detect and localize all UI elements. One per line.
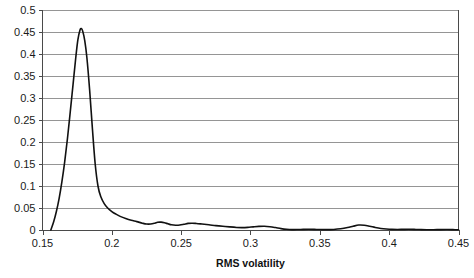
x-tick-label: 0.4 [382, 237, 397, 249]
y-tick-label: 0.25 [14, 114, 35, 126]
x-axis-tick-labels: 0.150.20.250.30.350.40.45 [32, 237, 469, 249]
y-tick-label: 0.5 [20, 4, 35, 16]
x-tick-label: 0.3 [243, 237, 258, 249]
x-axis-title: RMS volatility [216, 257, 285, 269]
data-series-line [51, 28, 459, 230]
y-tick-label: 0.2 [20, 136, 35, 148]
y-tick-label: 0.05 [14, 202, 35, 214]
x-tick-label: 0.25 [170, 237, 191, 249]
y-tick-label: 0.1 [20, 180, 35, 192]
y-axis-tick-marks [39, 11, 43, 231]
y-tick-label: 0.3 [20, 92, 35, 104]
y-tick-label: 0.4 [20, 48, 35, 60]
x-tick-label: 0.15 [32, 237, 53, 249]
y-tick-label: 0.45 [14, 26, 35, 38]
y-tick-label: 0.15 [14, 158, 35, 170]
x-tick-label: 0.45 [448, 237, 469, 249]
x-tick-label: 0.35 [309, 237, 330, 249]
y-tick-label: 0.35 [14, 70, 35, 82]
y-tick-label: 0 [29, 224, 35, 236]
horizontal-gridlines [43, 11, 459, 231]
y-axis-tick-labels: 00.050.10.150.20.250.30.350.40.450.5 [14, 4, 35, 236]
rms-volatility-line-chart: 00.050.10.150.20.250.30.350.40.450.5 0.1… [0, 0, 474, 278]
chart-container: 00.050.10.150.20.250.30.350.40.450.5 0.1… [0, 0, 474, 278]
x-tick-label: 0.2 [104, 237, 119, 249]
